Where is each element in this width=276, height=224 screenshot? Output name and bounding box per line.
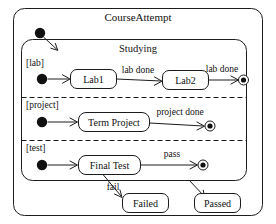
transition-label-lab-done-1: lab done (122, 65, 154, 75)
state-lab1-label: Lab1 (83, 74, 104, 85)
transition-term-project-to-final[interactable] (150, 123, 204, 126)
initial-state-test-region[interactable] (37, 160, 47, 170)
uml-state-diagram: CourseAttempt Studying [lab] Lab1 lab do… (0, 0, 276, 224)
initial-state-project-region[interactable] (37, 117, 47, 127)
transition-label-pass: pass (164, 149, 181, 159)
initial-state-course-attempt[interactable] (35, 28, 45, 38)
state-term-project-label: Term Project (88, 117, 140, 128)
final-state-test-region-inner (200, 162, 205, 167)
final-state-lab-region-inner (241, 77, 246, 82)
state-passed-label: Passed (204, 198, 231, 209)
state-failed-label: Failed (133, 198, 158, 209)
initial-state-lab-region[interactable] (37, 74, 47, 84)
guard-project: [project] (26, 100, 59, 110)
composite-state-title: Studying (119, 43, 158, 54)
transition-label-lab-done-2: lab done (206, 64, 238, 74)
guard-lab: [lab] (26, 58, 44, 68)
final-state-project-region-inner (207, 123, 212, 128)
diagram-canvas: CourseAttempt Studying [lab] Lab1 lab do… (0, 0, 276, 224)
state-lab2-label: Lab2 (175, 75, 196, 86)
guard-test: [test] (26, 143, 46, 153)
state-final-test-label: Final Test (90, 160, 130, 171)
transition-lab1-to-lab2[interactable] (117, 79, 162, 81)
transition-label-fail: fail (107, 182, 120, 192)
outer-state-title: CourseAttempt (104, 11, 171, 23)
transition-label-project-done: project done (156, 107, 203, 117)
